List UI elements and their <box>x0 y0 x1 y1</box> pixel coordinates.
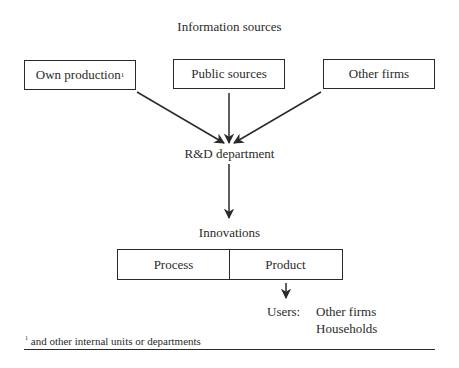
footnote-mark: 1 <box>25 335 28 341</box>
footnote: 1 and other internal units or department… <box>25 336 201 347</box>
users-item: Households <box>316 322 377 335</box>
innovation-type-label: Process <box>154 257 194 273</box>
users-item: Other firms <box>316 305 376 318</box>
innovation-process: Process <box>117 249 230 280</box>
arrow-other-to-rd <box>234 92 321 143</box>
innovations-label: Innovations <box>0 226 459 239</box>
arrow-own-to-rd <box>137 92 224 143</box>
footnote-text: and other internal units or departments <box>31 335 201 347</box>
arrows <box>0 0 459 368</box>
users-label: Users: <box>267 305 300 318</box>
innovation-type-label: Product <box>265 257 305 273</box>
innovation-product: Product <box>229 249 343 280</box>
rd-department-label: R&D department <box>0 147 459 160</box>
footnote-rule <box>24 349 435 350</box>
